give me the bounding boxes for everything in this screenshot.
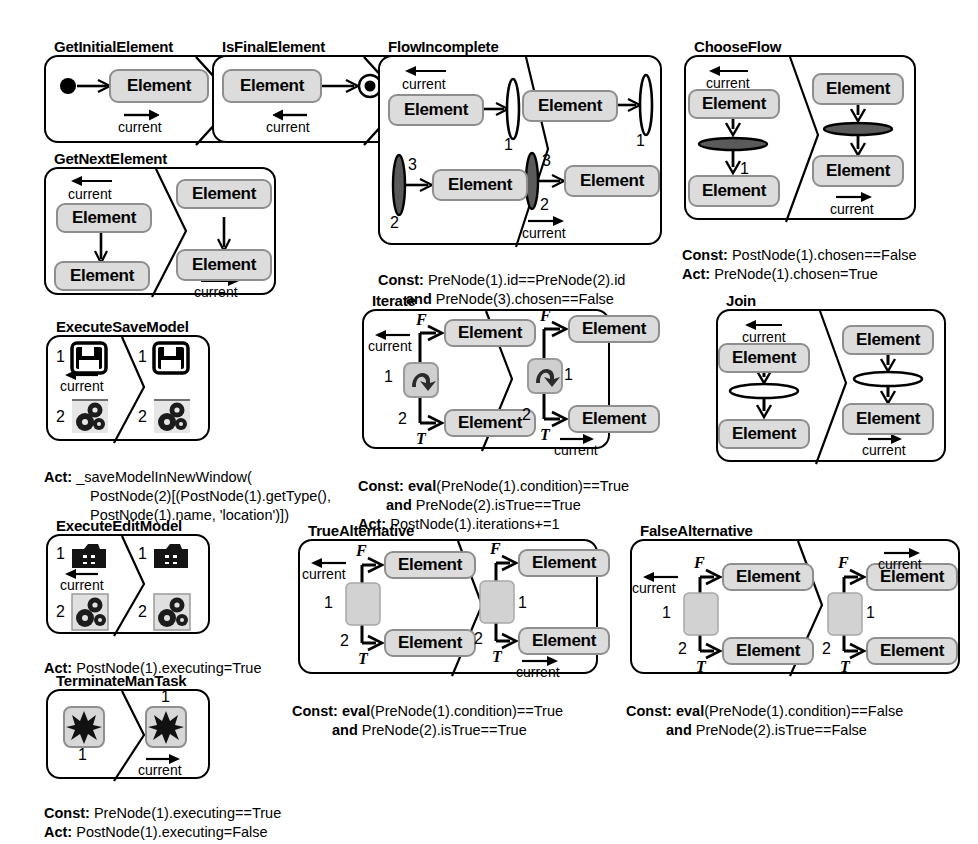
edge-label-current: current (830, 202, 874, 217)
const-fn: eval (338, 703, 370, 719)
const-key: Const: (292, 703, 338, 719)
act-text: _saveModelInNewWindow( (72, 469, 252, 485)
gears-icon (154, 594, 190, 630)
element-node: Element (518, 549, 610, 577)
node-number-2: 2 (678, 641, 687, 657)
element-node: Element (718, 419, 810, 449)
gears-icon (154, 399, 190, 433)
const-text: PreNode(2).isTrue==False (692, 722, 867, 738)
rule-title: TrueAlternative (308, 522, 608, 539)
branch-label-F: F (356, 543, 367, 559)
element-node: Element (722, 637, 814, 665)
element-node: Element (518, 627, 610, 655)
element-node: Element (842, 325, 934, 355)
rule-true-alternative: TrueAlternative F current 1 (298, 522, 608, 674)
edge-label-current: current (60, 379, 104, 394)
const-key: Const: (378, 272, 424, 288)
branch-label-F: F (490, 541, 501, 557)
flow-bar-dark (824, 123, 892, 135)
decision-node (480, 581, 514, 623)
node-number-1: 1 (78, 747, 87, 763)
branch-label-T: T (840, 659, 850, 675)
rule-terminate-man-task: TerminateManTask 1 1 current Const: PreN… (46, 672, 296, 779)
node-number-2: 2 (474, 631, 483, 647)
edge-label-current: current (194, 285, 238, 300)
rule-action-cont: PostNode(2)[(PostNode(1).getType(), (90, 487, 331, 506)
rule-body: current Element Element Element Element … (716, 309, 946, 462)
save-icon (154, 343, 188, 373)
rule-body: 1 current 2 1 2 (46, 534, 210, 634)
node-number-1: 1 (324, 595, 333, 611)
node-number-1: 1 (384, 369, 393, 385)
element-node: Element (176, 179, 272, 209)
rule-body: 1 current 2 1 2 (46, 335, 210, 441)
rule-title: Join (726, 292, 966, 309)
branch-label-F: F (416, 312, 427, 328)
element-node: Element (54, 261, 150, 291)
const-text: (PreNode(1).condition)==True (370, 703, 563, 719)
node-number-1: 1 (662, 605, 671, 621)
element-node: Element (568, 315, 660, 343)
element-node: Element (568, 405, 660, 433)
element-node: Element (842, 403, 934, 435)
node-number-1: 1 (564, 367, 573, 383)
rule-false-alternative: FalseAlternative F current (630, 522, 970, 674)
edge-label-current: current (60, 578, 104, 593)
act-key: Act: (682, 266, 710, 282)
rule-constraint-cont: and PreNode(2).isTrue==False (666, 721, 867, 740)
gears-icon (72, 594, 108, 630)
rule-title: Iterate (372, 292, 632, 309)
branch-label-F: F (838, 555, 849, 571)
element-node: Element (812, 155, 904, 187)
node-number-2: 2 (822, 641, 831, 657)
element-node: Element (56, 203, 152, 233)
node-number-2: 2 (522, 407, 531, 423)
node-number-1: 1 (866, 605, 875, 621)
element-node: Element (722, 563, 814, 591)
node-number-2: 2 (56, 409, 65, 425)
rule-iterate: Iterate (362, 292, 632, 449)
rule-body: current Element Element Element Element … (44, 167, 276, 295)
bar-number-3: 3 (408, 157, 417, 173)
branch-label-T: T (696, 659, 706, 675)
node-number-1: 1 (138, 546, 147, 562)
rule-body: Element current (212, 55, 402, 143)
decision-node (684, 593, 718, 635)
rule-constraint-cont: and PreNode(2).isTrue==True (386, 496, 581, 515)
rule-constraint: Const: eval(PreNode(1).condition)==True (358, 477, 629, 496)
rule-action: Act: PreNode(1).chosen=True (682, 265, 878, 284)
rule-constraint: Const: eval(PreNode(1).condition)==True (292, 702, 563, 721)
node-number-1: 1 (161, 689, 170, 705)
rule-body: F current 1 2 T Element Element F 1 2 T … (298, 539, 598, 674)
loop-icon (528, 359, 562, 393)
rule-title: FalseAlternative (640, 522, 970, 539)
const-conj: and (332, 722, 358, 738)
act-key: Act: (44, 824, 72, 840)
rule-body: 1 1 current (46, 689, 210, 779)
const-conj: and (386, 497, 412, 513)
initial-node-icon (60, 78, 76, 94)
const-text: (PreNode(1).condition)==True (436, 478, 629, 494)
edit-folder-icon (72, 544, 106, 568)
edge-label-current: current (522, 226, 566, 241)
const-text: PreNode(1).id==PreNode(2).id (424, 272, 626, 288)
rule-body: F current 1 2 T Element Element F 1 2 T … (630, 539, 960, 674)
rule-body: current Element 1 Element Element Elemen… (684, 55, 916, 220)
rule-body: Element current (44, 55, 234, 143)
edge-label-current: current (632, 581, 676, 596)
element-node: Element (718, 343, 810, 373)
branch-label-T: T (416, 431, 426, 447)
element-node: Element (812, 73, 904, 105)
burst-icon (64, 707, 104, 747)
save-icon (72, 343, 106, 373)
rule-constraint: Const: eval(PreNode(1).condition)==False (626, 702, 903, 721)
element-node: Element (564, 165, 660, 197)
flow-bar-white (640, 75, 652, 135)
node-number-2: 2 (340, 633, 349, 649)
branch-label-T: T (358, 651, 368, 667)
decision-node (346, 583, 380, 625)
const-key: Const: (682, 247, 728, 263)
edge-label-current: current (402, 77, 446, 92)
node-number-1: 1 (138, 349, 147, 365)
rule-title: ChooseFlow (694, 38, 964, 55)
